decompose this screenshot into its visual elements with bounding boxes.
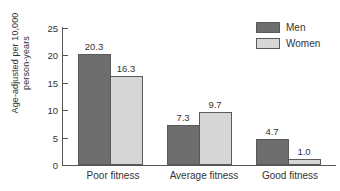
legend-swatch-men-icon	[256, 22, 280, 33]
bar-average-men[interactable]	[167, 125, 200, 165]
legend-item-men[interactable]: Men	[256, 22, 336, 33]
legend-label-women: Women	[286, 38, 320, 49]
value-label-poor-women: 16.3	[109, 64, 143, 74]
x-category-label-good: Good fitness	[243, 170, 337, 182]
y-tick-label-10: 10	[36, 106, 58, 116]
legend-item-women[interactable]: Women	[256, 38, 336, 49]
y-axis-title: Age-adjusted per 10,000 person-years	[10, 0, 44, 138]
bar-chart: Age-adjusted per 10,000 person-years 25 …	[0, 0, 340, 191]
y-tick-label-20: 20	[36, 51, 58, 61]
x-category-label-average: Average fitness	[150, 170, 258, 182]
y-tick-label-0: 0	[36, 161, 58, 171]
bar-good-men[interactable]	[256, 139, 289, 165]
bar-average-women[interactable]	[199, 112, 232, 165]
x-category-label-poor: Poor fitness	[63, 170, 163, 182]
value-label-good-men: 4.7	[255, 127, 289, 137]
bar-poor-men[interactable]	[78, 54, 111, 165]
legend-swatch-women-icon	[256, 38, 280, 49]
bar-poor-women[interactable]	[110, 76, 143, 165]
value-label-good-women: 1.0	[287, 147, 321, 157]
legend-label-men: Men	[286, 22, 305, 33]
x-axis-line	[62, 165, 336, 166]
y-tick-label-25: 25	[36, 24, 58, 34]
value-label-average-women: 9.7	[198, 100, 232, 110]
value-label-average-men: 7.3	[166, 113, 200, 123]
y-tick-label-5: 5	[36, 134, 58, 144]
bar-good-women[interactable]	[288, 159, 321, 165]
value-label-poor-men: 20.3	[77, 42, 111, 52]
y-tick-label-15: 15	[36, 79, 58, 89]
legend: Men Women	[256, 22, 336, 54]
